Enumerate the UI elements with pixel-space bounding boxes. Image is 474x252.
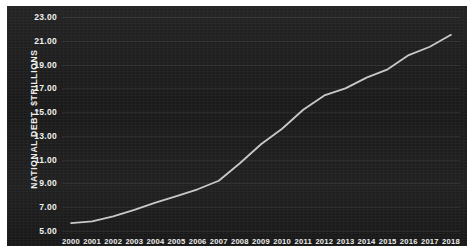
series-line-chart xyxy=(62,17,460,231)
y-axis-tick-label: 13.00 xyxy=(34,131,57,141)
y-axis-tick-label: 5.00 xyxy=(39,226,57,236)
x-axis-tick-label: 2007 xyxy=(210,237,228,246)
x-axis-tick-label: 2005 xyxy=(168,237,186,246)
x-axis-tick-label: 2012 xyxy=(315,237,333,246)
chart-screenshot: NATIONAL DEBT, $TRILLIONS 23.0021.0019.0… xyxy=(0,0,474,252)
x-axis-tick-label: 2004 xyxy=(146,237,164,246)
x-axis-tick-label: 2014 xyxy=(358,237,376,246)
x-axis-tick-label: 2001 xyxy=(83,237,101,246)
y-axis-tick-label: 17.00 xyxy=(34,83,57,93)
x-axis-tick-label: 2009 xyxy=(252,237,270,246)
x-axis-tick-label: 2013 xyxy=(336,237,354,246)
x-axis-tick-label: 2002 xyxy=(104,237,122,246)
y-axis-tick-label: 15.00 xyxy=(34,107,57,117)
x-axis-tick-label: 2016 xyxy=(400,237,418,246)
gridline xyxy=(62,231,460,232)
y-axis-tick-label: 23.00 xyxy=(34,12,57,22)
y-axis-tick-labels: 23.0021.0019.0017.0015.0013.0011.009.007… xyxy=(21,17,57,231)
series-line-national-debt xyxy=(71,35,451,223)
x-axis-tick-labels: 2000200120022003200420052006200720082009… xyxy=(62,237,460,246)
x-axis-tick-label: 2006 xyxy=(189,237,207,246)
y-axis-tick-label: 9.00 xyxy=(39,178,57,188)
y-axis-tick-label: 21.00 xyxy=(34,36,57,46)
y-axis-tick-label: 11.00 xyxy=(35,155,57,165)
x-axis-tick-label: 2003 xyxy=(125,237,143,246)
y-axis-tick-label: 19.00 xyxy=(34,60,57,70)
x-axis-tick-label: 2017 xyxy=(421,237,439,246)
x-axis-tick-label: 2018 xyxy=(442,237,460,246)
y-axis-tick-label: 7.00 xyxy=(39,202,57,212)
x-axis-tick-label: 2015 xyxy=(379,237,397,246)
x-axis-tick-label: 2008 xyxy=(231,237,249,246)
x-axis-tick-label: 2010 xyxy=(273,237,291,246)
x-axis-tick-label: 2000 xyxy=(62,237,80,246)
x-axis-tick-label: 2011 xyxy=(294,237,311,246)
plot-area xyxy=(62,17,460,231)
chart-panel: NATIONAL DEBT, $TRILLIONS 23.0021.0019.0… xyxy=(7,6,467,246)
